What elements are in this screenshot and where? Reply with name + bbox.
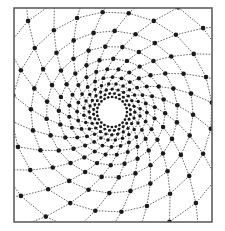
mesh-edge <box>74 33 94 41</box>
mesh-edge <box>94 12 103 33</box>
mesh-node <box>161 125 165 129</box>
mesh-node <box>126 150 130 154</box>
mesh-edge <box>75 230 107 231</box>
mesh-edge <box>21 189 48 196</box>
mesh-edge <box>203 129 211 154</box>
mesh-node <box>63 135 67 139</box>
mesh-edge <box>0 46 7 75</box>
mesh-node <box>191 112 196 117</box>
spiral-mesh-diagram <box>0 0 225 231</box>
mesh-node <box>84 121 88 125</box>
mesh-node <box>107 125 110 128</box>
mesh-node <box>124 103 127 106</box>
mesh-edge <box>0 107 12 122</box>
mesh-node <box>33 46 38 51</box>
mesh-node <box>126 11 131 16</box>
mesh-node <box>144 120 148 124</box>
mesh-node <box>50 165 55 170</box>
mesh-edge <box>33 130 41 150</box>
mesh-node <box>71 146 75 150</box>
mesh-edge <box>105 47 122 48</box>
mesh-node <box>116 67 120 71</box>
mesh-edge <box>31 109 47 118</box>
mesh-node <box>44 214 49 219</box>
mesh-node <box>111 126 114 129</box>
mesh-edge <box>71 163 86 172</box>
mesh-node <box>97 58 101 62</box>
mesh-node <box>100 10 105 15</box>
mesh-node <box>133 111 136 114</box>
mesh-node <box>151 59 156 64</box>
mesh-node <box>150 94 154 98</box>
mesh-node <box>104 93 107 96</box>
mesh-node <box>31 128 36 133</box>
mesh-node <box>99 96 102 99</box>
mesh-node <box>118 93 121 96</box>
mesh-node <box>76 119 80 123</box>
mesh-node <box>96 111 99 114</box>
mesh-node <box>148 181 153 186</box>
mesh-edge <box>7 21 28 46</box>
mesh-edge <box>129 0 149 13</box>
mesh-node <box>128 80 132 84</box>
mesh-edge <box>46 217 75 231</box>
mesh-node <box>114 138 118 142</box>
mesh-node <box>128 189 133 194</box>
mesh-edge <box>176 35 194 54</box>
mesh-edge <box>191 94 212 103</box>
mesh-node <box>114 82 118 86</box>
mesh-node <box>175 120 180 125</box>
central-hole <box>100 100 124 124</box>
mesh-node <box>73 71 77 75</box>
mesh-edge <box>40 150 52 167</box>
mesh-node <box>56 148 61 153</box>
mesh-node <box>132 105 135 108</box>
mesh-node <box>137 76 141 80</box>
mesh-node <box>118 98 121 101</box>
mesh-node <box>96 99 99 102</box>
mesh-edge <box>171 54 193 57</box>
mesh-edge <box>109 191 130 193</box>
mesh-node <box>165 169 170 174</box>
mesh-node <box>132 128 136 132</box>
mesh-node <box>115 153 119 157</box>
mesh-edge <box>147 194 170 206</box>
mesh-node <box>144 102 148 106</box>
mesh-node <box>170 137 175 142</box>
mesh-edge <box>59 151 71 164</box>
mesh-edge <box>54 18 77 30</box>
mesh-node <box>128 118 131 121</box>
mesh-node <box>155 137 159 141</box>
mesh-node <box>45 99 50 104</box>
mesh-node <box>201 26 206 31</box>
mesh-node <box>93 209 98 214</box>
mesh-node <box>96 115 99 118</box>
mesh-node <box>110 133 113 136</box>
mesh-edge <box>70 203 95 211</box>
mesh-node <box>111 75 115 79</box>
mesh-node <box>125 115 128 118</box>
mesh-edge <box>94 31 115 33</box>
mesh-node <box>90 122 93 125</box>
mesh-node <box>93 149 97 153</box>
mesh-node <box>80 127 84 131</box>
mesh-node <box>76 100 80 104</box>
mesh-edge <box>30 168 52 171</box>
mesh-node <box>82 106 86 110</box>
mesh-node <box>85 134 89 138</box>
mesh-node <box>126 127 129 130</box>
mesh-edge <box>178 7 203 28</box>
mesh-edge <box>217 178 225 210</box>
mesh-edge <box>147 184 150 206</box>
mesh-edge <box>47 85 52 102</box>
mesh-node <box>75 109 79 113</box>
mesh-node <box>93 88 97 92</box>
mesh-canvas <box>0 0 225 231</box>
mesh-edge <box>122 47 138 52</box>
mesh-edge <box>149 0 178 7</box>
mesh-node <box>153 116 157 120</box>
mesh-node <box>100 100 103 103</box>
mesh-edge <box>168 155 181 171</box>
mesh-node <box>214 176 219 181</box>
mesh-node <box>52 28 57 33</box>
